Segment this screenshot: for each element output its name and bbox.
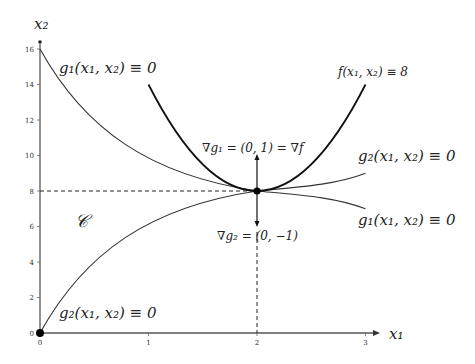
x-axis-arrow-icon [373,330,380,336]
y-axis-label: x₂ [34,15,48,33]
diagram-canvas: 0 2 4 6 8 10 12 14 16 0 1 2 3 x₁ x₂ g₁(x… [0,0,475,364]
arrow-down-icon [255,221,260,227]
y-tick-4: 4 [30,259,35,267]
x-tick-3: 3 [363,339,367,347]
y-tick-2: 2 [30,294,34,302]
label-g1-top: g₁(x₁, x₂) ≡ 0 [59,59,157,77]
x-axis-label: x₁ [389,325,403,343]
x-tick-1: 1 [146,339,150,347]
y-tick-6: 6 [30,223,35,231]
y-axis-tip-icon [38,40,42,44]
optimum-point [253,187,260,194]
y-tick-14: 14 [25,81,34,89]
y-tick-12: 12 [25,117,34,125]
label-f-level: f(x₁, x₂) ≡ 8 [337,65,408,79]
label-grad-g1: ∇g₁ = (0, 1) = ∇f [202,141,306,155]
x-tick-2: 2 [255,339,259,347]
label-g2-right: g₂(x₁, x₂) ≡ 0 [358,147,456,165]
x-tick-0: 0 [38,339,42,347]
label-grad-g2: ∇g₂ = (0, −1) [217,229,298,243]
label-g1-right: g₁(x₁, x₂) ≡ 0 [358,211,456,229]
origin-point [36,329,44,337]
y-tick-10: 10 [25,152,34,160]
y-tick-0: 0 [30,330,34,338]
y-tick-16: 16 [25,46,34,54]
label-g2-bottom: g₂(x₁, x₂) ≡ 0 [59,304,157,322]
y-tick-8: 8 [30,188,34,196]
label-feasible-set: 𝒞 [75,210,93,231]
